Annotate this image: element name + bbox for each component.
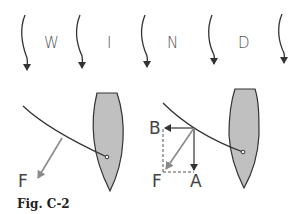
vector-f-label: F <box>152 171 162 191</box>
right-mast-pivot <box>241 150 245 154</box>
wind-arrow-4 <box>209 15 215 64</box>
left-force-label: F <box>18 171 28 191</box>
figure-caption: Fig. C-2 <box>17 197 70 211</box>
left-panel: F <box>18 93 123 191</box>
wind-label: W I N D <box>44 34 250 52</box>
right-panel: B F A <box>149 89 259 191</box>
wind-arrow-5 <box>279 14 285 63</box>
left-hull <box>93 93 123 191</box>
wind-letter-d: D <box>238 34 250 52</box>
wind-letter-i: I <box>107 34 111 52</box>
left-mast-pivot <box>105 155 109 159</box>
wind-letter-n: N <box>167 34 178 52</box>
vector-b-label: B <box>149 118 161 138</box>
vector-a-label: A <box>190 171 202 191</box>
vector-f-arrow <box>166 128 194 169</box>
right-hull <box>229 89 259 188</box>
wind-force-diagram: W I N D F B F A <box>0 0 300 214</box>
wind-arrow-3 <box>142 15 148 67</box>
wind-arrow-1 <box>22 15 28 70</box>
wind-arrow-2 <box>77 15 83 68</box>
left-force-arrow <box>38 138 62 178</box>
wind-letter-w: W <box>44 34 59 52</box>
